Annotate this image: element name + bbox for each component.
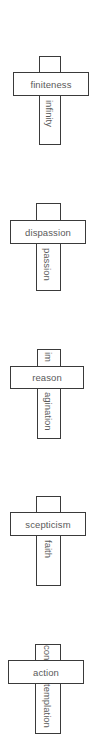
horizontal-label: finiteness: [30, 79, 71, 90]
horizontal-bar: scepticism: [10, 512, 86, 536]
vertical-top-label: con: [42, 645, 52, 660]
horizontal-label: scepticism: [25, 519, 70, 530]
horizontal-bar: reason: [10, 366, 84, 389]
horizontal-label: action: [33, 667, 59, 678]
horizontal-bar: action: [8, 660, 84, 684]
vertical-bottom-label: templation: [42, 684, 52, 728]
horizontal-label: reason: [32, 372, 62, 383]
horizontal-bar: finiteness: [13, 72, 89, 96]
horizontal-label: dispassion: [25, 227, 71, 238]
horizontal-bar: dispassion: [10, 220, 86, 244]
